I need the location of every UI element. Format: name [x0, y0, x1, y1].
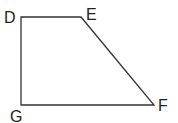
- vertex-label-e: E: [86, 6, 97, 23]
- vertex-label-g: G: [10, 108, 22, 123]
- vertex-label-d: D: [4, 9, 16, 26]
- trapezoid-defg: [21, 17, 154, 105]
- trapezoid-diagram: D E F G: [0, 0, 178, 123]
- vertex-label-f: F: [158, 97, 168, 114]
